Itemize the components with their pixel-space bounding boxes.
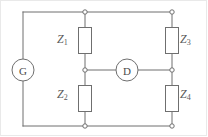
impedance-label-z1-sub: 1 xyxy=(64,38,68,47)
circuit-schematic: G D xyxy=(0,0,208,137)
generator-label: G xyxy=(19,65,27,77)
circuit-figure: G D Z1 Z2 Z3 Z4 xyxy=(0,0,208,137)
impedance-label-z2-sub: 2 xyxy=(64,93,68,102)
impedance-box-z1 xyxy=(79,28,92,54)
impedance-label-z4-sub: 4 xyxy=(187,93,191,102)
node-mid-left xyxy=(83,68,87,72)
node-top-right xyxy=(170,10,174,14)
node-top-mid xyxy=(83,10,87,14)
node-mid-right xyxy=(170,68,174,72)
impedance-label-z1: Z1 xyxy=(57,33,68,45)
node-bottom-mid xyxy=(83,124,87,128)
impedance-label-z2: Z2 xyxy=(57,88,68,100)
impedance-label-z3-sub: 3 xyxy=(187,38,191,47)
impedance-label-z4: Z4 xyxy=(180,88,191,100)
impedance-box-z2 xyxy=(79,86,92,112)
impedance-box-z4 xyxy=(166,86,179,112)
impedance-label-z1-base: Z xyxy=(57,32,64,46)
impedance-label-z4-base: Z xyxy=(180,87,187,101)
impedance-label-z3: Z3 xyxy=(180,33,191,45)
impedance-label-z2-base: Z xyxy=(57,87,64,101)
impedance-label-z3-base: Z xyxy=(180,32,187,46)
detector-label: D xyxy=(123,65,131,77)
impedance-box-z3 xyxy=(166,28,179,54)
node-bottom-right xyxy=(170,124,174,128)
